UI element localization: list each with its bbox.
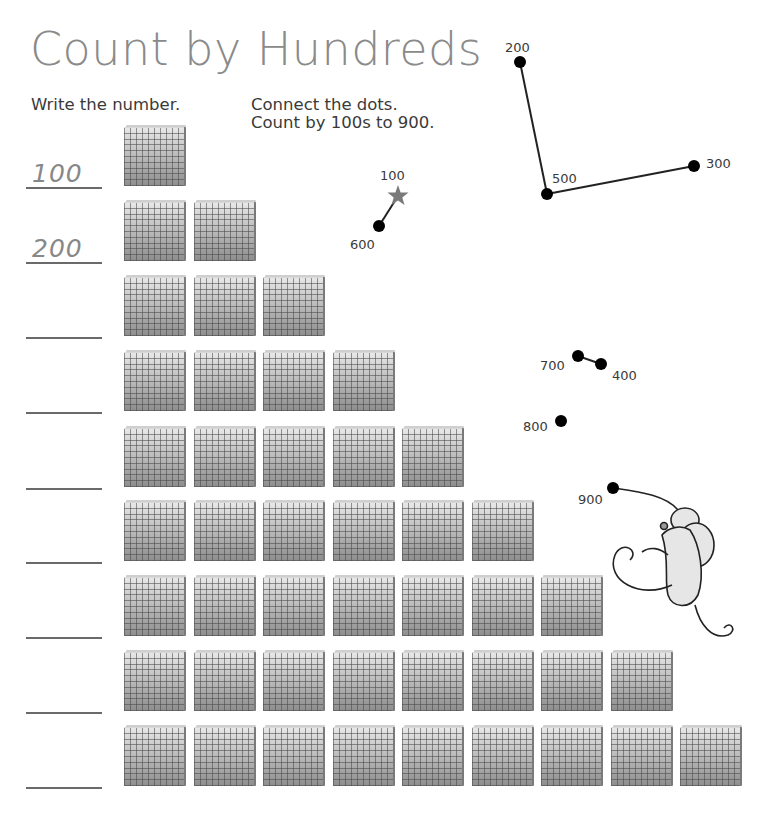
- mouse-tail-string: [613, 488, 678, 510]
- dot-700[interactable]: [572, 350, 584, 362]
- dot-label: 200: [505, 40, 530, 55]
- dot-label: 300: [706, 156, 731, 171]
- dot-to-dot: 100200300400500600700800900: [0, 0, 767, 818]
- dot-800[interactable]: [555, 415, 567, 427]
- dots-group: 100200300400500600700800900: [350, 40, 731, 507]
- mouse-illustration: [613, 488, 733, 636]
- dot-label: 800: [523, 419, 548, 434]
- dot-label: 600: [350, 237, 375, 252]
- start-star-icon[interactable]: [388, 185, 409, 205]
- dot-label: 100: [380, 168, 405, 183]
- dot-label: 700: [540, 358, 565, 373]
- dot-900[interactable]: [607, 482, 619, 494]
- dot-label: 400: [612, 368, 637, 383]
- dot-label: 900: [578, 492, 603, 507]
- connected-segments: [379, 62, 694, 364]
- dot-600[interactable]: [373, 220, 385, 232]
- dot-500[interactable]: [541, 188, 553, 200]
- dot-300[interactable]: [688, 160, 700, 172]
- dot-200[interactable]: [514, 56, 526, 68]
- dot-label: 500: [552, 171, 577, 186]
- connecting-line: [520, 62, 547, 194]
- dot-400[interactable]: [595, 358, 607, 370]
